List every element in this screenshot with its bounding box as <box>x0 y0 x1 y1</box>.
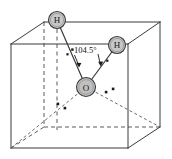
cube-hidden-edge-bottom-left-diagonal <box>11 127 44 148</box>
cube-edge-connect-top-right <box>128 22 160 44</box>
angle-tick-right-mark <box>106 60 108 62</box>
atom-h2[interactable]: H <box>109 37 126 54</box>
atom-h1-label: H <box>54 15 61 25</box>
atom-h2-label: H <box>114 40 121 50</box>
atom-o1[interactable]: O <box>77 78 96 97</box>
water-molecule-cube-figure: 104.5° H H O <box>0 0 172 159</box>
lone-pair-dot-lr-a <box>105 91 108 94</box>
bond-angle-label: 104.5° <box>74 45 97 55</box>
cube-interior-diagonal <box>11 87 86 148</box>
lone-pair-dot-lr-b <box>112 88 115 91</box>
cube-interior-diagonal-right <box>86 87 160 127</box>
cube-edge-connect-top-left <box>11 22 44 44</box>
lone-pair-dot-ll-a <box>57 103 60 106</box>
atom-h1[interactable]: H <box>49 12 66 29</box>
figure-canvas: 104.5° H H O <box>0 0 172 159</box>
cube-edge-connect-bottom-right <box>128 127 160 148</box>
atom-o1-label: O <box>83 83 90 93</box>
angle-tick-left-mark <box>66 53 68 55</box>
lone-pair-dot-ll-b <box>64 107 67 110</box>
